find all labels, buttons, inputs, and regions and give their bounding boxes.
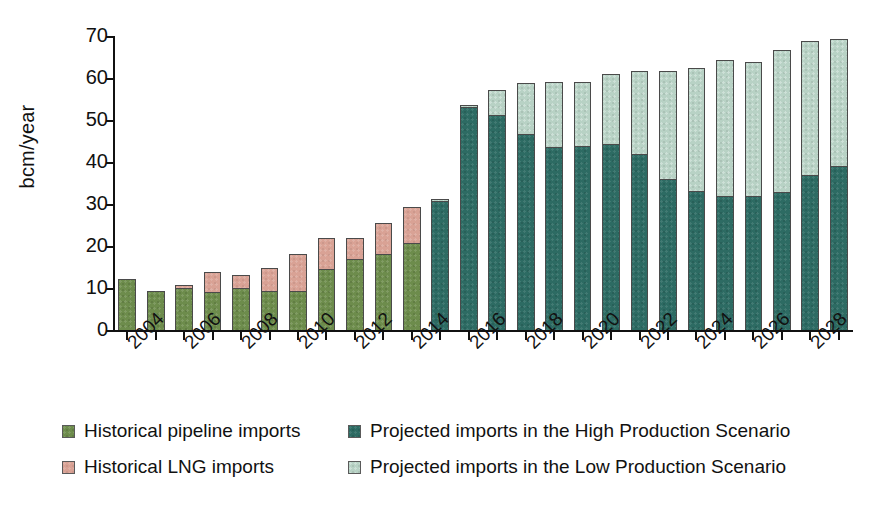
bar-segment (773, 192, 791, 330)
y-tick-mark (106, 288, 113, 290)
bar-segment (346, 259, 364, 330)
bar (517, 83, 535, 330)
bar (631, 71, 649, 330)
y-axis-title: bcm/year (16, 62, 39, 232)
bar-series-container (113, 36, 853, 330)
axes (113, 36, 853, 330)
legend-item[interactable]: Projected imports in the High Production… (348, 420, 790, 442)
bar-segment (204, 272, 222, 292)
bar-segment (773, 50, 791, 192)
bar-segment (261, 268, 279, 291)
bar (232, 275, 250, 330)
bar-segment (602, 74, 620, 145)
bar-segment (830, 39, 848, 166)
bar-segment (801, 41, 819, 175)
bar-segment (346, 238, 364, 259)
legend-item[interactable]: Historical pipeline imports (62, 420, 300, 442)
bar-segment (232, 288, 250, 330)
bar-segment (175, 288, 193, 330)
y-tick-label: 60 (74, 67, 108, 87)
chart-legend: Historical pipeline importsHistorical LN… (62, 418, 852, 488)
y-tick-label: 10 (74, 277, 108, 297)
bar-segment (118, 279, 136, 330)
bar (830, 39, 848, 330)
bar (460, 105, 478, 330)
bar-segment (830, 166, 848, 330)
y-tick-mark (106, 204, 113, 206)
bar-segment (688, 191, 706, 330)
y-tick-mark (106, 162, 113, 164)
bar-segment (289, 291, 307, 330)
legend-swatch-icon (348, 425, 361, 438)
y-tick-mark (106, 36, 113, 38)
legend-label: Projected imports in the Low Production … (370, 456, 786, 478)
bar-segment (517, 83, 535, 134)
y-tick-label: 50 (74, 109, 108, 129)
legend-label: Historical LNG imports (84, 456, 274, 478)
chart-figure: bcm/year 706050403020100 200420062008201… (0, 0, 869, 507)
legend-swatch-icon (62, 425, 75, 438)
bar (659, 71, 677, 330)
bar (574, 82, 592, 330)
bar-segment (488, 115, 506, 330)
bar (175, 285, 193, 330)
y-tick-label: 20 (74, 235, 108, 255)
y-tick-mark (106, 246, 113, 248)
bar-segment (716, 60, 734, 196)
bar (346, 238, 364, 330)
y-tick-label: 0 (74, 319, 108, 339)
bar (745, 62, 763, 330)
bar-segment (574, 82, 592, 147)
bar (773, 50, 791, 330)
bar-segment (631, 71, 649, 153)
y-tick-mark (106, 78, 113, 80)
bar-segment (574, 146, 592, 330)
bar-segment (801, 175, 819, 330)
legend-item[interactable]: Historical LNG imports (62, 456, 274, 478)
plot-area: bcm/year 706050403020100 200420062008201… (0, 0, 869, 410)
legend-swatch-icon (348, 461, 361, 474)
bar-segment (631, 154, 649, 330)
bar (289, 254, 307, 330)
legend-swatch-icon (62, 461, 75, 474)
legend-label: Projected imports in the High Production… (370, 420, 790, 442)
bar-segment (318, 238, 336, 268)
legend-label: Historical pipeline imports (84, 420, 300, 442)
bar (403, 207, 421, 330)
bar (716, 60, 734, 330)
bar (688, 68, 706, 330)
y-tick-label: 30 (74, 193, 108, 213)
bar-segment (602, 144, 620, 330)
bar-segment (545, 82, 563, 147)
bar-segment (659, 179, 677, 330)
bar-segment (745, 196, 763, 330)
bar (545, 82, 563, 330)
bar-segment (745, 62, 763, 196)
bar (488, 90, 506, 330)
bar-segment (488, 90, 506, 116)
bar (602, 74, 620, 330)
bar-segment (403, 243, 421, 330)
bar-segment (517, 134, 535, 330)
bar-segment (688, 68, 706, 192)
bar-segment (545, 147, 563, 330)
y-tick-mark (106, 330, 113, 332)
y-axis-tick-labels: 706050403020100 (74, 0, 108, 340)
bar (801, 41, 819, 330)
bar-segment (289, 254, 307, 291)
y-tick-label: 70 (74, 25, 108, 45)
y-tick-label: 40 (74, 151, 108, 171)
bar-segment (659, 71, 677, 179)
y-tick-mark (106, 120, 113, 122)
legend-item[interactable]: Projected imports in the Low Production … (348, 456, 786, 478)
bar-segment (232, 275, 250, 288)
x-axis-tick-labels: 2004200620082010201220142016201820202022… (113, 338, 869, 398)
bar-segment (403, 207, 421, 244)
bar-segment (460, 107, 478, 330)
bar (118, 279, 136, 330)
bar-segment (375, 223, 393, 254)
